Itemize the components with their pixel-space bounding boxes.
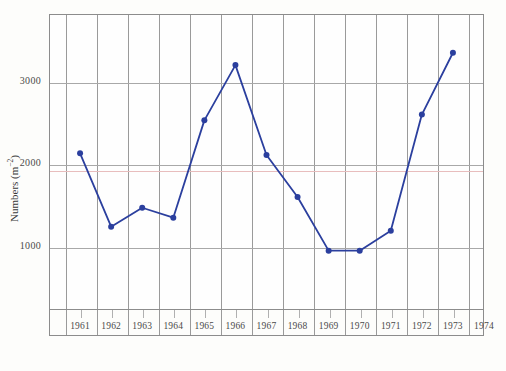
x-minor-tick [361,310,362,318]
x-minor-tick [174,310,175,318]
x-gridline [252,15,253,309]
y-axis-title: Numbers (m−2) [6,206,20,222]
x-minor-tick [423,310,424,318]
y-tick-label: 1000 [0,240,41,251]
x-minor-tick [330,310,331,318]
x-gridline [66,15,67,309]
x-gridline [159,15,160,309]
x-gridline [97,15,98,309]
x-gridline [469,15,470,309]
x-gridline [345,15,346,309]
x-gridline [438,15,439,309]
x-gridline [314,15,315,309]
y-tick-label: 2000 [0,157,41,168]
x-gridline [283,15,284,309]
x-gridline [376,15,377,309]
y-axis-title-text: Numbers (m [8,167,20,222]
plot-area [49,14,484,310]
x-gridline [190,15,191,309]
x-minor-tick [112,310,113,318]
x-minor-tick [205,310,206,318]
y-gridline [50,165,483,166]
reference-line [50,171,483,172]
y-gridline [50,83,483,84]
x-minor-tick [81,310,82,318]
x-minor-tick [236,310,237,318]
x-minor-tick [143,310,144,318]
x-minor-tick [299,310,300,318]
x-gridline [407,15,408,309]
x-minor-tick [392,310,393,318]
x-gridline [128,15,129,309]
x-minor-tick [454,310,455,318]
x-tick-label: 1974 [462,321,506,331]
y-gridline [50,248,483,249]
chart-figure: Numbers (m−2) 10002000300019611962196319… [0,0,506,371]
x-gridline [221,15,222,309]
x-minor-tick [268,310,269,318]
y-tick-label: 3000 [0,75,41,86]
